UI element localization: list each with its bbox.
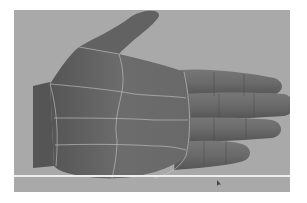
ring-finger bbox=[182, 118, 281, 142]
3d-viewport[interactable] bbox=[14, 10, 290, 192]
thumb bbox=[79, 11, 159, 55]
ground-plane-line bbox=[14, 175, 290, 177]
middle-finger bbox=[184, 93, 290, 119]
hand-model bbox=[14, 10, 290, 192]
palm bbox=[50, 47, 191, 178]
mouse-cursor-icon bbox=[217, 180, 221, 186]
index-finger bbox=[179, 69, 282, 96]
